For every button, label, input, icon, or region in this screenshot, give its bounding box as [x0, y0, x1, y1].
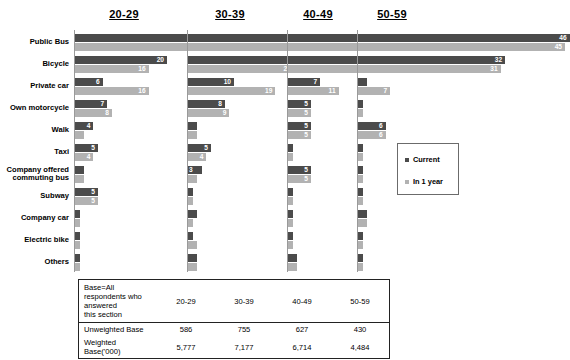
bar-future: 7: [358, 87, 390, 95]
bar-future: 45: [358, 43, 565, 51]
bar-row: [358, 254, 458, 272]
bar-current: 3: [188, 166, 202, 174]
bar-value-label: 5: [91, 145, 95, 152]
bar-current: 7: [288, 78, 320, 86]
bar-future: [75, 131, 84, 139]
bar-future: [358, 241, 363, 249]
bar-value-label: 16: [138, 88, 145, 95]
bar-current: 46: [358, 34, 570, 42]
base-table-cell: 586: [157, 323, 215, 337]
bar-row: 711: [288, 78, 355, 96]
bar-row: 2016: [75, 56, 185, 74]
bar-future: [188, 241, 197, 249]
bar-value-label: 5: [304, 101, 308, 108]
bar-current: [358, 188, 363, 196]
bar-current: [358, 254, 363, 262]
bar-value-label: 5: [304, 167, 308, 174]
bar-value-label: 5: [304, 176, 308, 183]
bar-row: 616: [75, 78, 185, 96]
bar-future: 8: [75, 109, 112, 117]
category-label: Electric bike: [0, 236, 69, 244]
bar-value-label: 32: [495, 57, 502, 64]
bar-future: 16: [75, 65, 149, 73]
bar-row: [288, 188, 355, 206]
base-table-cell: 755: [215, 323, 273, 337]
bar-row: 3331: [288, 56, 355, 74]
bar-row: 55: [288, 122, 355, 140]
panel-header-30-39: 30-39: [200, 8, 260, 20]
base-table-row-label: Unweighted Base: [79, 323, 157, 337]
bar-current: [288, 254, 297, 262]
bar-value-label: 5: [91, 189, 95, 196]
bar-row: 4645: [358, 34, 458, 52]
bar-current: 6: [358, 122, 386, 130]
bar-future: [358, 263, 363, 271]
bar-current: [358, 210, 367, 218]
bar-current: 20: [75, 56, 167, 64]
bar-row: [75, 254, 185, 272]
bar-future: [358, 109, 363, 117]
category-label: Walk: [0, 126, 69, 134]
bar-value-label: 3: [189, 167, 193, 174]
bar-row: 66: [358, 122, 458, 140]
bar-current: [188, 210, 197, 218]
bar-row: 55: [288, 100, 355, 118]
bar-row: [188, 254, 285, 272]
bar-future: 4: [188, 153, 206, 161]
bar-row: [288, 210, 355, 228]
category-label: Own motorcycle: [0, 104, 69, 112]
bar-row: 3: [188, 166, 285, 184]
bar-value-label: 7: [101, 101, 105, 108]
panel-20-29: 514620166167845455: [74, 30, 185, 272]
base-table-cell: 4,484: [331, 336, 389, 358]
bar-row: 54: [188, 144, 285, 162]
bar-current: [188, 254, 197, 262]
bar-value-label: 4: [87, 123, 91, 130]
bar-row: 3734: [288, 34, 355, 52]
bar-current: 4: [75, 122, 93, 130]
bar-value-label: 6: [379, 123, 383, 130]
bar-value-label: 7: [314, 79, 318, 86]
bar-future: 31: [358, 65, 501, 73]
bar-future: [188, 197, 193, 205]
legend-label: In 1 year: [413, 177, 443, 186]
bar-current: 5: [288, 166, 311, 174]
legend-item-future[interactable]: In 1 year: [405, 177, 443, 186]
bar-future: 5: [75, 197, 98, 205]
bar-current: [188, 122, 197, 130]
bar-row: [288, 232, 355, 250]
bar-row: 89: [188, 100, 285, 118]
chart-legend: CurrentIn 1 year: [397, 143, 459, 195]
base-table-cell: 430: [331, 323, 389, 337]
bar-value-label: 5: [304, 132, 308, 139]
bar-value-label: 5: [304, 110, 308, 117]
bar-current: 8: [188, 100, 225, 108]
base-table-col-header: 40-49: [273, 280, 331, 323]
bar-row: [288, 254, 355, 272]
legend-item-current[interactable]: Current: [405, 155, 440, 164]
bar-future: [75, 175, 84, 183]
bar-row: [75, 210, 185, 228]
bar-value-label: 5: [204, 145, 208, 152]
category-label: Company car: [0, 214, 69, 222]
base-table-cell: 627: [273, 323, 331, 337]
bar-value-label: 10: [224, 79, 231, 86]
bar-future: 9: [188, 109, 229, 117]
bar-value-label: 7: [384, 88, 388, 95]
base-table-grid: Base=All respondents who answered this s…: [79, 280, 389, 358]
bar-value-label: 4: [200, 154, 204, 161]
bar-current: 5: [288, 100, 311, 108]
bar-future: 5: [288, 175, 311, 183]
bar-current: [358, 166, 363, 174]
bar-future: [288, 197, 293, 205]
bar-current: 6: [75, 78, 103, 86]
bar-row: 54: [75, 144, 185, 162]
base-table-cell: 6,714: [273, 336, 331, 358]
category-label: Public Bus: [0, 38, 69, 46]
bar-current: [358, 100, 363, 108]
bar-row: 3231: [358, 56, 458, 74]
bar-value-label: 8: [105, 110, 109, 117]
bar-future: [358, 175, 363, 183]
bar-value-label: 11: [329, 88, 336, 95]
